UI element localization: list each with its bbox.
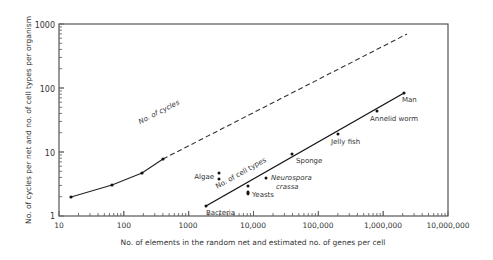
data-point-man xyxy=(403,92,406,95)
data-point-jellyfish xyxy=(337,133,340,136)
data-point-annelid xyxy=(376,110,379,113)
log-log-chart: 1000 100 10 1 10 100 1000 10,000 100,000… xyxy=(0,0,493,260)
x-tick-label: 1000 xyxy=(178,221,197,230)
cycles-line-solid xyxy=(71,159,163,197)
data-point-neurospora xyxy=(265,177,268,180)
label-sponge: Sponge xyxy=(296,157,322,165)
label-neurospora: Neurospora xyxy=(271,174,312,182)
label-jellyfish: Jelly fish xyxy=(330,138,360,146)
data-point-bacteria xyxy=(205,205,208,208)
data-point-algae xyxy=(218,172,221,175)
label-bacteria: Bacteria xyxy=(206,209,235,217)
data-point xyxy=(69,195,72,198)
label-yeasts: Yeasts xyxy=(251,191,274,199)
data-point-yeast xyxy=(247,185,250,188)
y-axis-ticks xyxy=(59,24,64,216)
x-tick-label: 100,000 xyxy=(302,221,333,230)
data-point-sponge xyxy=(291,153,294,156)
label-annelid: Annelid worm xyxy=(370,115,418,123)
y-tick-label: 10 xyxy=(45,149,55,158)
data-point-algae xyxy=(218,178,221,181)
data-point-yeasts xyxy=(246,191,249,196)
x-tick-label: 100 xyxy=(117,221,132,230)
data-point xyxy=(110,183,113,186)
data-point xyxy=(140,171,143,174)
celltypes-line xyxy=(206,93,404,206)
y-tick-label: 100 xyxy=(40,85,55,94)
cycles-line-dashed xyxy=(163,34,407,159)
data-point xyxy=(161,157,164,160)
cycles-line-label: No. of cycles xyxy=(137,98,181,126)
x-axis-ticks xyxy=(59,211,448,216)
y-axis-title: No. of cycles per net and no. of cell ty… xyxy=(24,16,33,224)
x-tick-label: 10 xyxy=(54,221,64,230)
x-tick-label: 10,000 xyxy=(240,221,266,230)
x-tick-label: 10,000,000 xyxy=(427,221,470,230)
y-tick-label: 1 xyxy=(50,212,55,221)
y-tick-label: 1000 xyxy=(35,21,55,30)
label-algae: Algae xyxy=(194,173,214,181)
cycles-points xyxy=(69,157,164,198)
label-man: Man xyxy=(402,96,417,104)
x-axis-title: No. of elements in the random net and es… xyxy=(121,238,386,247)
label-crassa: crassa xyxy=(276,183,299,191)
x-tick-label: 1,000,000 xyxy=(364,221,402,230)
